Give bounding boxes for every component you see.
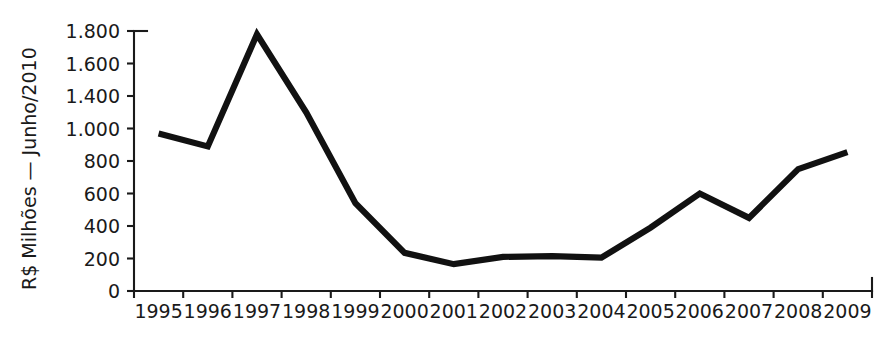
- line-chart: R$ Milhões — Junho/2010 02004006008001.0…: [0, 0, 888, 341]
- x-axis-tick-label: 1995: [134, 300, 182, 322]
- x-axis-tick-label: 1997: [233, 300, 281, 322]
- x-axis-tick-label: 2000: [380, 300, 428, 322]
- data-series-line: [159, 34, 848, 264]
- y-axis-title-label: R$ Milhões — Junho/2010: [18, 47, 40, 290]
- y-axis-tick-label: 1.800: [66, 20, 120, 42]
- x-axis-tick-label: 1999: [331, 300, 379, 322]
- x-axis-tick-label: 2002: [479, 300, 527, 322]
- y-axis-title: R$ Milhões — Junho/2010: [18, 47, 40, 290]
- x-axis-tick-label: 2007: [725, 300, 773, 322]
- chart-canvas: R$ Milhões — Junho/2010 02004006008001.0…: [0, 0, 888, 341]
- x-axis-tick-label: 1998: [282, 300, 330, 322]
- x-axis-tick-label: 2008: [774, 300, 822, 322]
- x-axis-tick-label: 2005: [626, 300, 674, 322]
- y-axis-tick-label: 0: [108, 280, 120, 302]
- x-axis-tick-labels: 1995199619971998199920002001200220032004…: [134, 300, 871, 322]
- y-axis-tick-label: 1.000: [66, 118, 120, 140]
- x-axis-tick-label: 2006: [676, 300, 724, 322]
- y-axis-tick-label: 1.600: [66, 53, 120, 75]
- x-axis-tick-label: 1996: [184, 300, 232, 322]
- x-axis-tick-label: 2009: [823, 300, 871, 322]
- x-axis-tick-label: 2001: [430, 300, 478, 322]
- axis-lines: [134, 31, 872, 291]
- x-axis-tick-label: 2004: [577, 300, 625, 322]
- y-axis-tick-label: 200: [84, 248, 120, 270]
- y-axis-tick-label: 400: [84, 215, 120, 237]
- x-axis-tick-label: 2003: [528, 300, 576, 322]
- y-axis-tick-label: 1.400: [66, 85, 120, 107]
- y-axis-tick-label: 800: [84, 150, 120, 172]
- y-axis-tick-label: 600: [84, 183, 120, 205]
- y-axis-tick-labels: 02004006008001.0001.4001.6001.800: [66, 20, 120, 302]
